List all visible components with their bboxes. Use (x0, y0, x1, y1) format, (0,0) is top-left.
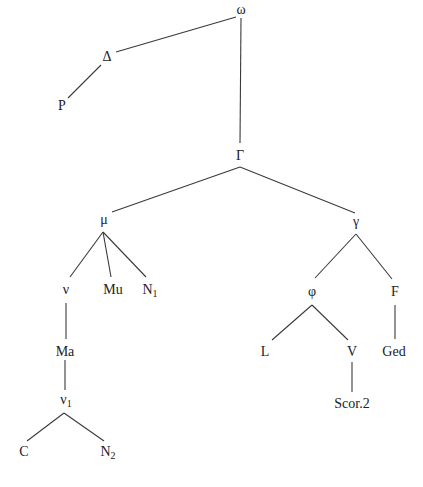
node-label: Ma (56, 344, 75, 359)
node-label: Scor.2 (334, 396, 369, 411)
node-label: Ged (382, 344, 405, 359)
node-N1: N1 (142, 283, 157, 299)
node-label: N (100, 444, 110, 459)
edge-gamma-phi (315, 234, 356, 278)
edge-nu1-C (27, 413, 64, 441)
node-subscript: 1 (153, 288, 158, 299)
edge-gamma-F (356, 234, 392, 279)
node-Delta: Δ (102, 50, 111, 64)
node-label: ν (63, 282, 69, 297)
node-Ma: Ma (56, 345, 75, 359)
node-L: L (261, 345, 270, 359)
node-label: N (142, 282, 152, 297)
node-F: F (391, 285, 399, 299)
node-label: P (58, 98, 66, 113)
node-label: γ (353, 214, 359, 229)
edge-Gamma-mu (112, 167, 240, 212)
node-Scor2: Scor.2 (334, 397, 369, 411)
node-C: C (19, 445, 28, 459)
node-Mu: Mu (103, 283, 122, 297)
node-subscript: 1 (67, 398, 72, 409)
edge-Gamma-gamma (240, 167, 355, 213)
node-label: φ (308, 284, 316, 299)
node-N2: N2 (100, 445, 115, 461)
node-label: V (347, 344, 357, 359)
node-label: μ (100, 212, 108, 227)
node-Gamma: Γ (236, 149, 244, 163)
node-phi: φ (308, 285, 316, 299)
node-label: F (391, 284, 399, 299)
edge-mu-nu (70, 232, 103, 277)
node-P: P (58, 99, 66, 113)
node-subscript: 2 (111, 450, 116, 461)
node-nu1: ν1 (60, 393, 71, 409)
edge-omega-Gamma (240, 18, 241, 143)
node-label: Γ (236, 148, 244, 163)
node-label: Δ (102, 49, 111, 64)
stemma-diagram: ωΔPΓμγνMuN1φFMaLVGedν1Scor.2CN2 (0, 0, 423, 487)
node-V: V (347, 345, 357, 359)
edge-phi-V (312, 305, 348, 340)
node-gamma: γ (353, 215, 359, 229)
tree-edges (0, 0, 423, 487)
edge-nu1-N2 (64, 413, 104, 441)
node-label: ω (236, 2, 245, 17)
node-omega: ω (236, 3, 245, 17)
node-label: C (19, 444, 28, 459)
edge-omega-Delta (116, 17, 236, 52)
node-Ged: Ged (382, 345, 405, 359)
node-label: Mu (103, 282, 122, 297)
node-nu: ν (63, 283, 69, 297)
node-mu: μ (100, 213, 108, 227)
node-label: L (261, 344, 270, 359)
edge-phi-L (272, 305, 312, 340)
edge-Delta-P (68, 65, 101, 98)
